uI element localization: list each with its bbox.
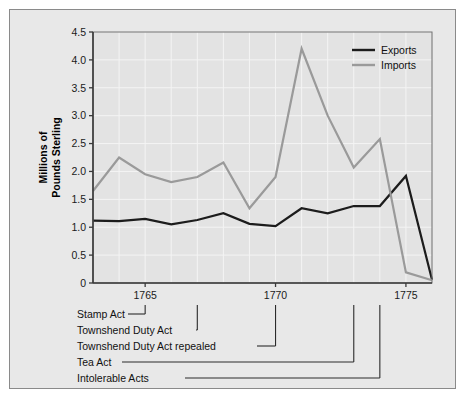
y-tick-label: 2.0	[71, 165, 86, 177]
y-tick-label: 4.5	[71, 26, 86, 38]
chart-svg: 00.51.01.52.02.53.03.54.04.5 17651770177…	[0, 0, 465, 398]
y-axis-label-line2: Pounds Sterling	[50, 117, 62, 198]
x-tick-label: 1770	[264, 289, 288, 301]
y-tick-label: 1.5	[71, 193, 86, 205]
legend-label-exports: Exports	[381, 44, 417, 56]
y-axis-label: Millions ofPounds Sterling	[37, 117, 62, 198]
y-tick-label: 0	[80, 277, 86, 289]
annotation-label: Tea Act	[77, 356, 112, 368]
y-tick-label: 4.0	[71, 54, 86, 66]
x-tick-label: 1765	[133, 289, 157, 301]
annotation-label: Intolerable Acts	[77, 372, 149, 384]
annotation-label: Stamp Act	[77, 308, 125, 320]
x-tick-label: 1775	[394, 289, 418, 301]
annotation-label: Townshend Duty Act	[77, 324, 172, 336]
y-tick-label: 1.0	[71, 221, 86, 233]
y-axis-ticks: 00.51.01.52.02.53.03.54.04.5	[71, 26, 93, 289]
x-axis-ticks: 176517701775	[133, 283, 417, 301]
y-tick-label: 3.5	[71, 82, 86, 94]
chart-figure: 00.51.01.52.02.53.03.54.04.5 17651770177…	[0, 0, 465, 398]
y-tick-label: 3.0	[71, 109, 86, 121]
event-annotations: Stamp ActTownshend Duty ActTownshend Dut…	[77, 305, 380, 384]
annotation-label: Townshend Duty Act repealed	[77, 340, 216, 352]
y-tick-label: 0.5	[71, 249, 86, 261]
y-tick-label: 2.5	[71, 137, 86, 149]
legend-label-imports: Imports	[381, 59, 416, 71]
y-axis-label-line1: Millions of	[37, 131, 49, 183]
